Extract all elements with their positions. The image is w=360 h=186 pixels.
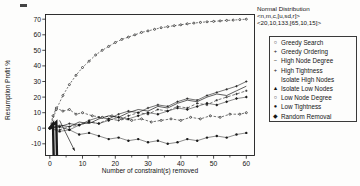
legend-label: Low Tightness	[281, 103, 321, 110]
legend-item: ◆ Random Removal	[270, 112, 356, 121]
legend-box: ○ Greedy Search + Greedy Ordering − High…	[269, 36, 357, 122]
legend-item: ▲ Isolate Low Nodes	[270, 84, 356, 93]
svg-text:0: 0	[37, 125, 41, 132]
svg-text:40: 40	[33, 62, 41, 69]
legend-item: + Greedy Ordering	[270, 47, 356, 56]
circle-open-marker-icon: ○	[270, 93, 281, 102]
y-axis-title: Resumption Profit %	[4, 60, 12, 120]
legend-label: Low Node Degree	[281, 94, 332, 101]
svg-text:10: 10	[79, 160, 87, 167]
plus-marker-icon: +	[270, 47, 281, 56]
triangle-marker-icon: ▲	[270, 84, 281, 93]
svg-text:50: 50	[33, 47, 41, 54]
data-series-lines	[48, 18, 247, 158]
legend-item: ● Low Tightness	[270, 102, 356, 111]
svg-text:10: 10	[33, 109, 41, 116]
legend-item: ○ Greedy Search	[270, 38, 356, 47]
plus-marker-icon: +	[270, 66, 281, 75]
legend-label: Isolate Low Nodes	[281, 85, 333, 92]
legend-label: Greedy Ordering	[281, 48, 328, 55]
circle-filled-marker-icon: ●	[270, 102, 281, 111]
legend-item: Isolate High Nodes	[270, 75, 356, 84]
legend-label: Isolate High Nodes	[281, 76, 334, 83]
legend-label: High Node Degree	[281, 57, 333, 64]
svg-text:60: 60	[33, 31, 41, 38]
legend-item: + High Tightness	[270, 66, 356, 75]
legend-label: Greedy Search	[281, 39, 323, 46]
svg-text:60: 60	[243, 160, 251, 167]
svg-text:-10: -10	[31, 140, 41, 147]
svg-text:50: 50	[210, 160, 218, 167]
circle-open-marker-icon: ○	[270, 38, 281, 47]
svg-text:0: 0	[48, 160, 52, 167]
plot-frame	[46, 15, 255, 156]
legend-label: High Tightness	[281, 67, 323, 74]
legend-header-line2: <n,m,c,[u,sd,r]>	[257, 12, 321, 19]
scan-artifact-mark	[20, 4, 27, 7]
svg-text:30: 30	[33, 78, 41, 85]
diamond-filled-marker-icon: ◆	[270, 112, 281, 121]
legend-header-line3: <20,10,133,[65,10,15]>	[257, 19, 321, 26]
legend-header: Normal Distribution <n,m,c,[u,sd,r]> <20…	[257, 5, 321, 27]
svg-text:70: 70	[33, 16, 41, 23]
legend-item: − High Node Degree	[270, 56, 356, 65]
svg-text:20: 20	[33, 94, 41, 101]
axis-ticks: 0102030405060706050403020100-10	[31, 16, 250, 167]
x-axis-title: Number of constraint(s) removed	[102, 167, 199, 175]
legend-label: Random Removal	[281, 113, 331, 120]
legend-item: ○ Low Node Degree	[270, 93, 356, 102]
scanned-chart-figure: 0102030405060706050403020100-10 Number o…	[0, 0, 360, 186]
dash-marker-icon: −	[270, 56, 281, 65]
legend-header-line1: Normal Distribution	[257, 5, 321, 12]
